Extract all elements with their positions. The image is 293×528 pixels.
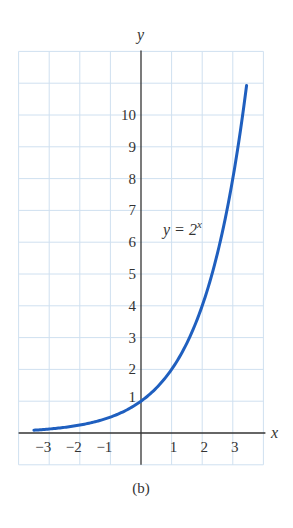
curve-equation-label: y = 2x <box>161 218 202 239</box>
x-axis-label: x <box>270 424 278 441</box>
exponential-curve <box>34 85 247 430</box>
y-tick-label: 4 <box>129 298 137 314</box>
x-tick-label: 2 <box>200 439 208 455</box>
curve-layer <box>34 85 247 430</box>
y-tick-label: 6 <box>129 234 137 250</box>
y-tick-label: 2 <box>129 361 137 377</box>
y-tick-label: 8 <box>129 171 137 187</box>
y-axis-label: y <box>135 26 145 44</box>
axes <box>19 50 266 464</box>
y-tick-label: 1 <box>129 389 137 405</box>
y-tick-label: 7 <box>129 202 137 218</box>
y-tick-label: 10 <box>121 107 136 123</box>
x-tick-label: −1 <box>96 439 112 455</box>
y-tick-label: 9 <box>129 139 137 155</box>
x-tick-label: −3 <box>35 439 51 455</box>
y-tick-label: 5 <box>129 266 137 282</box>
x-tick-label: 3 <box>231 439 239 455</box>
exponential-chart: −3−2−112312345678910 x y y = 2x (b) <box>0 0 293 528</box>
x-tick-label: −2 <box>66 439 82 455</box>
y-tick-label: 3 <box>129 330 137 346</box>
figure-caption: (b) <box>132 480 150 497</box>
x-tick-label: 1 <box>170 439 178 455</box>
